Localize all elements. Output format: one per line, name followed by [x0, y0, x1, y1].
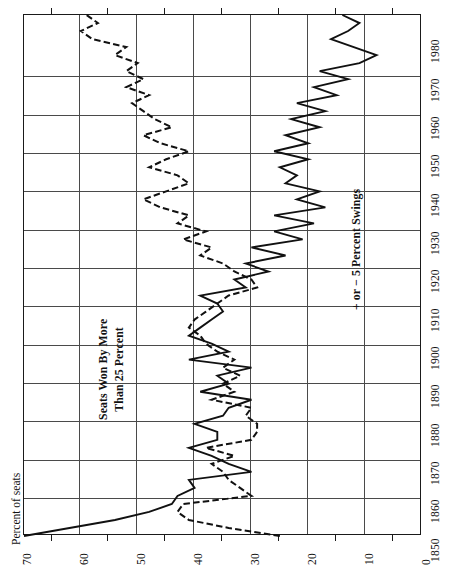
year-axis-tick-1860: 1860	[430, 499, 442, 523]
year-axis-tick-1910: 1910	[430, 308, 442, 332]
year-axis-tick-1960: 1960	[430, 116, 442, 140]
year-axis-tick-1970: 1970	[430, 78, 442, 102]
year-axis-tick-1870: 1870	[430, 461, 442, 485]
value-axis-tick-20: 20	[307, 553, 319, 565]
year-axis-tick-1980: 1980	[430, 39, 442, 63]
year-axis-tick-1890: 1890	[430, 384, 442, 408]
value-axis-tick-50: 50	[136, 553, 148, 565]
year-axis-tick-1920: 1920	[430, 269, 442, 293]
year-axis-tick-1900: 1900	[430, 346, 442, 370]
year-axis-tick-1880: 1880	[430, 423, 442, 447]
year-axis-tick-1950: 1950	[430, 154, 442, 178]
plot-area: Seats Won By More Than 25 Percent + or −…	[23, 14, 421, 535]
value-axis-title: Percent of seats	[11, 473, 23, 545]
value-axis-tick-10: 10	[364, 553, 376, 565]
value-axis-tick-60: 60	[79, 553, 91, 565]
solid-series-label: + or − 5 Percent Swings	[351, 189, 363, 310]
value-axis-tick-70: 70	[22, 553, 34, 565]
chart-figure: Percent of seats 70 60 50 40 30 20 10 0 …	[0, 0, 454, 567]
solid-series-path	[24, 15, 377, 536]
dashed-series-label: Seats Won By More Than 25 Percent	[96, 319, 128, 420]
dashed-series-label-line2: Than 25 Percent	[112, 319, 128, 420]
value-axis-tick-40: 40	[193, 553, 205, 565]
value-axis-tick-30: 30	[250, 553, 262, 565]
year-axis-tick-1930: 1930	[430, 231, 442, 255]
dashed-series-label-line1: Seats Won By More	[96, 319, 112, 420]
year-axis-tick-1850: 1850	[430, 538, 442, 562]
year-axis-tick-1940: 1940	[430, 193, 442, 217]
